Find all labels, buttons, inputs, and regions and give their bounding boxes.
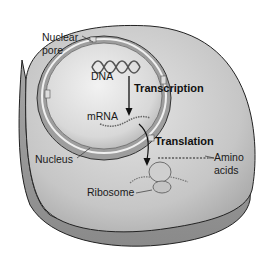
label-nuclear-pore: Nuclear	[42, 32, 78, 43]
cell-illustration	[0, 0, 267, 255]
label-dna: DNA	[91, 71, 113, 82]
label-amino-acids-2: acids	[214, 165, 239, 176]
label-mrna: mRNA	[87, 111, 118, 122]
label-amino-acids: Amino	[214, 152, 244, 163]
label-nucleus: Nucleus	[35, 154, 73, 165]
label-transcription: Transcription	[134, 83, 204, 94]
label-nuclear-pore-2: pore	[42, 45, 63, 56]
label-ribosome: Ribosome	[87, 187, 134, 198]
label-translation: Translation	[155, 136, 214, 147]
